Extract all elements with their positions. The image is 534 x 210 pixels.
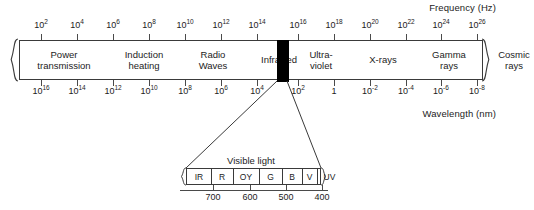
visible-band-separator — [317, 169, 318, 184]
visible-band-separator — [282, 169, 283, 184]
band-label-line2: transmission — [37, 60, 90, 72]
frequency-tick-label: 1022 — [397, 19, 414, 31]
frequency-tick-label: 1026 — [468, 19, 485, 31]
visible-band-ir: IR — [187, 169, 211, 184]
spectrum-band-cosmic-rays: Cosmicrays — [482, 41, 534, 79]
visible-light-bar: IRROYGBVUV — [186, 168, 321, 185]
band-label-line2: rays — [432, 60, 466, 72]
visible-tick-mark — [286, 185, 287, 190]
spectrum-band-x-rays: X-rays — [350, 41, 416, 79]
band-label-line1: Gamma — [432, 49, 466, 61]
spectrum-band-radio-waves: RadioWaves — [180, 41, 246, 79]
visible-band-b: B — [282, 169, 302, 184]
visible-band-g: G — [259, 169, 282, 184]
band-label-line1: Power — [37, 49, 90, 61]
band-label-line2: rays — [498, 60, 530, 72]
frequency-tick-label: 104 — [70, 19, 84, 31]
frequency-axis-title: Frequency (Hz) — [429, 2, 496, 13]
visible-band-uv: UV — [317, 169, 342, 184]
band-label-line1: Induction — [125, 49, 164, 61]
frequency-tick-label: 1012 — [212, 19, 229, 31]
frequency-tick-label: 1020 — [361, 19, 378, 31]
band-label-line1: Cosmic — [498, 49, 530, 61]
frequency-tick-label: 1024 — [432, 19, 449, 31]
visible-band-separator — [302, 169, 303, 184]
frequency-tick-label: 1016 — [289, 19, 306, 31]
visible-band-r: R — [211, 169, 233, 184]
frequency-tick-label: 102 — [34, 19, 48, 31]
visible-band-separator — [259, 169, 260, 184]
spectrum-band-gamma-rays: Gammarays — [416, 41, 482, 79]
band-label-line1: X-rays — [369, 54, 396, 66]
frequency-tick-label: 108 — [142, 19, 156, 31]
band-label-line1: Radio — [199, 49, 228, 61]
band-label-line2: heating — [125, 60, 164, 72]
visible-tick-label: 400 — [314, 192, 329, 202]
visible-band-v: V — [302, 169, 317, 184]
band-label-line2: violet — [309, 60, 332, 72]
visible-tick-label: 500 — [278, 192, 293, 202]
spectrum-bar: PowertransmissionInductionheatingRadioWa… — [19, 40, 483, 80]
frequency-tick-label: 1010 — [176, 19, 193, 31]
spectrum-band-ultra-violet: Ultra-violet — [292, 41, 350, 79]
visible-tick-mark — [213, 185, 214, 190]
frequency-tick-label: 106 — [106, 19, 120, 31]
visible-band-separator — [233, 169, 234, 184]
frequency-tick-label: 1014 — [248, 19, 265, 31]
visible-light-title: Visible light — [0, 155, 502, 166]
visible-light-axis-line — [180, 190, 328, 191]
visible-tick-label: 700 — [205, 192, 220, 202]
visible-band-separator — [211, 169, 212, 184]
visible-band-oy: OY — [233, 169, 259, 184]
band-label-line1: Ultra- — [309, 49, 332, 61]
band-label-line2: Waves — [199, 60, 228, 72]
visible-tick-mark — [250, 185, 251, 190]
visible-tick-mark — [322, 185, 323, 190]
visible-tick-label: 600 — [242, 192, 257, 202]
left-brace-icon — [9, 38, 19, 82]
spectrum-band-power-transmission: Powertransmission — [20, 41, 108, 79]
spectrum-band-induction-heating: Inductionheating — [108, 41, 180, 79]
frequency-tick-labels: 1021041061081010101210141016101810201022… — [0, 19, 502, 32]
frequency-tick-label: 1018 — [325, 19, 342, 31]
visible-light-marker — [277, 40, 289, 82]
